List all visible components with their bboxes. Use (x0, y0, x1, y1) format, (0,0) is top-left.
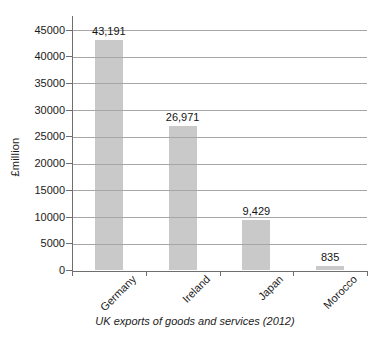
bar-value-label: 43,191 (69, 24, 149, 38)
x-axis-line (72, 271, 368, 272)
gridline (73, 83, 368, 84)
y-axis-line (72, 16, 73, 272)
gridline (73, 57, 368, 58)
gridline (73, 137, 368, 138)
y-axis-tick-label: 0 (19, 264, 65, 277)
y-axis-tick-label: 10000 (19, 211, 65, 224)
y-axis-tick-label: 40000 (19, 50, 65, 63)
y-axis-tick-label: 15000 (19, 184, 65, 197)
bar-chart: £million 0500010000150002000025000300003… (0, 0, 384, 343)
bar-value-label: 26,971 (143, 110, 223, 124)
gridline (73, 164, 368, 165)
bar-value-label: 835 (290, 250, 370, 264)
y-axis-tick-label: 35000 (19, 77, 65, 90)
bar-japan (242, 220, 270, 270)
bar-value-label: 9,429 (216, 204, 296, 218)
y-axis-tick-label: 20000 (19, 157, 65, 170)
gridline (73, 190, 368, 191)
y-axis-tick-label: 25000 (19, 130, 65, 143)
y-axis-tick-label: 45000 (19, 24, 65, 37)
bar-ireland (169, 126, 197, 270)
y-axis-tick-label: 5000 (19, 237, 65, 250)
bar-germany (95, 40, 123, 271)
gridline (73, 244, 368, 245)
y-axis-tick-label: 30000 (19, 104, 65, 117)
